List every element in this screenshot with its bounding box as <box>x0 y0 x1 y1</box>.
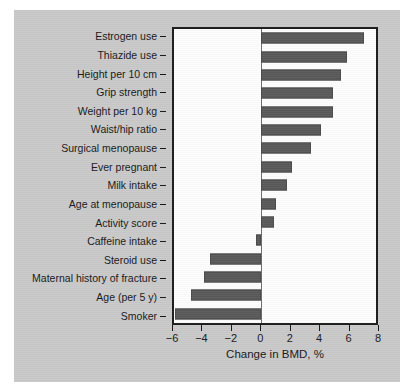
bar-row <box>174 121 376 139</box>
x-axis-title: Change in BMD, % <box>172 348 378 360</box>
bar <box>261 106 333 117</box>
y-axis-tick-mark <box>160 278 166 279</box>
y-axis-tick-mark <box>160 92 166 93</box>
bar-row <box>174 47 376 65</box>
y-axis-tick-label-text: Grip strength <box>96 86 157 98</box>
bar <box>210 253 261 264</box>
x-axis-tick-mark <box>319 325 320 331</box>
x-axis-tick-mark <box>349 325 350 331</box>
y-axis-tick-label: Milk intake <box>14 176 166 195</box>
x-axis-tick-label: 6 <box>346 332 352 344</box>
y-axis-tick-label-text: Milk intake <box>107 179 157 191</box>
y-axis-tick-mark <box>160 241 166 242</box>
bar <box>261 69 342 80</box>
y-axis-tick-mark <box>160 316 166 317</box>
bar-row <box>174 66 376 84</box>
y-axis-tick-mark <box>160 148 166 149</box>
bar <box>256 235 260 246</box>
bar <box>191 290 260 301</box>
y-axis-tick-label: Weight per 10 kg <box>14 102 166 121</box>
x-axis-tick-mark <box>378 325 379 331</box>
y-axis-tick-label: Maternal history of fracture <box>14 269 166 288</box>
y-axis-tick-label: Activity score <box>14 213 166 232</box>
y-axis-tick-label: Smoker <box>14 306 166 325</box>
y-axis-tick-label: Caffeine intake <box>14 232 166 251</box>
x-axis-tick-label: 2 <box>287 332 293 344</box>
bar-row <box>174 250 376 268</box>
y-axis-tick-label-text: Height per 10 cm <box>77 68 157 80</box>
y-axis-tick-label-text: Thiazide use <box>97 49 157 61</box>
y-axis-tick-label-text: Activity score <box>95 217 157 229</box>
y-axis-tick-label: Steroid use <box>14 251 166 270</box>
figure-panel: Estrogen useThiazide useHeight per 10 cm… <box>14 10 400 382</box>
bar-series <box>174 29 376 323</box>
bar <box>261 180 287 191</box>
bar-row <box>174 139 376 157</box>
bar-row <box>174 176 376 194</box>
y-axis-tick-label-text: Waist/hip ratio <box>91 123 157 135</box>
y-axis-category-labels: Estrogen useThiazide useHeight per 10 cm… <box>14 27 166 325</box>
y-axis-tick-mark <box>160 223 166 224</box>
x-axis-tick-label: 8 <box>375 332 381 344</box>
bar <box>261 33 365 44</box>
bar-row <box>174 103 376 121</box>
x-axis-tick-label: −2 <box>225 332 238 344</box>
y-axis-tick-label: Age (per 5 y) <box>14 288 166 307</box>
y-axis-tick-label-text: Maternal history of fracture <box>32 272 157 284</box>
bar <box>261 51 348 62</box>
y-axis-tick-label-text: Age (per 5 y) <box>96 291 157 303</box>
x-axis-tick-mark <box>231 325 232 331</box>
bar-row <box>174 194 376 212</box>
y-axis-tick-label: Thiazide use <box>14 46 166 65</box>
y-axis-tick-mark <box>160 111 166 112</box>
bar-row <box>174 231 376 249</box>
bar <box>261 198 277 209</box>
y-axis-tick-label: Estrogen use <box>14 27 166 46</box>
y-axis-tick-label: Surgical menopause <box>14 139 166 158</box>
y-axis-tick-mark <box>160 185 166 186</box>
bar <box>261 125 322 136</box>
bar-row <box>174 286 376 304</box>
bar-row <box>174 268 376 286</box>
y-axis-tick-label-text: Steroid use <box>104 254 157 266</box>
y-axis-tick-mark <box>160 55 166 56</box>
y-axis-tick-label-text: Surgical menopause <box>61 142 157 154</box>
y-axis-tick-label: Height per 10 cm <box>14 64 166 83</box>
x-axis-tick-label: −4 <box>195 332 208 344</box>
x-axis-tick-mark <box>290 325 291 331</box>
x-axis-tick-mark <box>201 325 202 331</box>
bar <box>261 88 333 99</box>
y-axis-tick-mark <box>160 36 166 37</box>
y-axis-tick-label-text: Age at menopause <box>69 198 157 210</box>
bar-row <box>174 84 376 102</box>
y-axis-tick-label: Grip strength <box>14 83 166 102</box>
bar <box>261 161 293 172</box>
bar <box>261 143 312 154</box>
y-axis-tick-mark <box>160 297 166 298</box>
x-axis-tick-mark <box>172 325 173 331</box>
y-axis-tick-label: Waist/hip ratio <box>14 120 166 139</box>
y-axis-tick-mark <box>160 129 166 130</box>
y-axis-tick-label-text: Estrogen use <box>95 30 157 42</box>
y-axis-tick-mark <box>160 74 166 75</box>
y-axis-tick-mark <box>160 204 166 205</box>
y-axis-tick-label: Ever pregnant <box>14 157 166 176</box>
y-axis-tick-label-text: Weight per 10 kg <box>78 105 157 117</box>
x-axis-tick-label: −6 <box>166 332 179 344</box>
plot-area <box>172 27 378 325</box>
y-axis-tick-mark <box>160 260 166 261</box>
x-axis-tick-label: 0 <box>257 332 263 344</box>
x-axis-tick-label: 4 <box>316 332 322 344</box>
y-axis-tick-label-text: Ever pregnant <box>91 161 157 173</box>
y-axis-tick-mark <box>160 167 166 168</box>
bar-row <box>174 305 376 323</box>
x-axis-tick-mark <box>260 325 261 331</box>
bar <box>204 272 260 283</box>
y-axis-tick-label-text: Smoker <box>121 310 157 322</box>
bar-row <box>174 213 376 231</box>
y-axis-tick-label: Age at menopause <box>14 195 166 214</box>
bar <box>261 216 274 227</box>
bar <box>175 308 260 319</box>
bar-row <box>174 158 376 176</box>
y-axis-tick-label-text: Caffeine intake <box>87 235 157 247</box>
